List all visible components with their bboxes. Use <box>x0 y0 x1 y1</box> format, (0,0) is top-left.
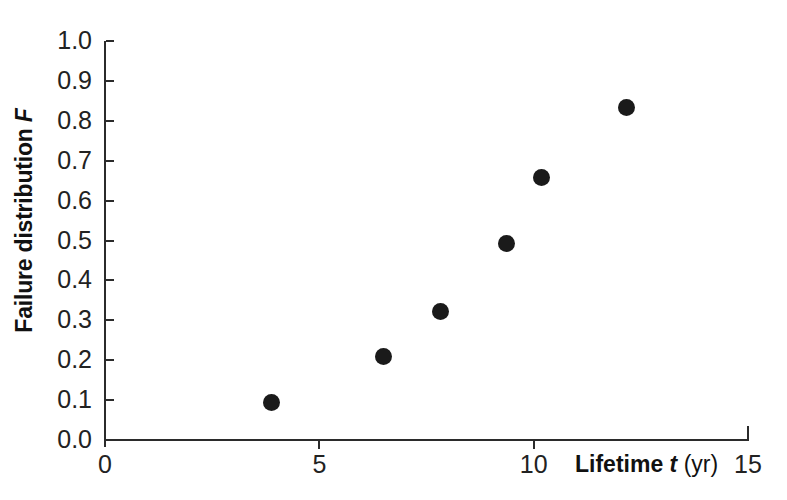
y-tick-label: 1.0 <box>57 28 92 53</box>
y-tick-label: 0.7 <box>57 148 92 173</box>
chart-figure: Failure distribution F 0.00.10.20.30.40.… <box>0 0 787 500</box>
y-tick-label: 0.0 <box>57 427 92 452</box>
x-axis-title-text: Lifetime <box>575 451 663 477</box>
data-point-marker <box>375 348 392 365</box>
y-tick-label: 0.3 <box>57 307 92 332</box>
y-tick-label: 0.2 <box>57 347 92 372</box>
data-point-marker <box>432 303 449 320</box>
data-point-marker <box>263 394 280 411</box>
x-tick-label: 5 <box>312 452 326 477</box>
x-tick-label: 15 <box>734 452 762 477</box>
x-tick-mark <box>318 441 320 449</box>
x-axis-title-unit: (yr) <box>684 451 718 477</box>
plot-area <box>105 41 748 440</box>
y-tick-label: 0.4 <box>57 267 92 292</box>
y-tick-label: 0.8 <box>57 108 92 133</box>
y-tick-label: 0.5 <box>57 228 92 253</box>
y-tick-label-group: 0.00.10.20.30.40.50.60.70.80.91.0 <box>0 0 92 500</box>
y-tick-label: 0.9 <box>57 68 92 93</box>
y-tick-label: 0.1 <box>57 387 92 412</box>
data-point-marker <box>618 99 635 116</box>
x-tick-mark <box>533 441 535 449</box>
x-tick-label: 10 <box>520 452 548 477</box>
x-tick-label: 0 <box>98 452 112 477</box>
x-axis-title: Lifetime t (yr) <box>575 451 718 478</box>
data-point-marker <box>498 235 515 252</box>
data-point-marker <box>533 169 550 186</box>
y-tick-label: 0.6 <box>57 188 92 213</box>
